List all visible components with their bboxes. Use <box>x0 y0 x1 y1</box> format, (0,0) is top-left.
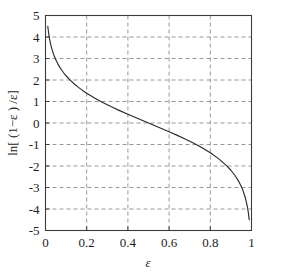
y-tick-label: -2 <box>29 159 40 174</box>
y-tick-label: 2 <box>33 73 40 88</box>
y-tick-label: 5 <box>33 8 40 23</box>
x-axis-title: ε <box>145 255 151 270</box>
y-tick-label: -3 <box>29 180 40 195</box>
x-tick-label: 1 <box>248 235 255 250</box>
y-tick-label: -5 <box>29 223 40 238</box>
y-tick-label: 0 <box>33 116 40 131</box>
x-tick-label: 0.6 <box>161 235 178 250</box>
x-tick-label: 0.4 <box>120 235 137 250</box>
x-tick-label: 0.8 <box>202 235 218 250</box>
y-tick-label: 4 <box>33 30 40 45</box>
chart-figure: 00.20.40.60.81 543210-1-2-3-4-5 ε ln[ (1… <box>0 0 293 276</box>
logit-curve-chart: 00.20.40.60.81 543210-1-2-3-4-5 ε ln[ (1… <box>0 0 293 276</box>
x-tick-label: 0.2 <box>79 235 95 250</box>
y-tick-label: 3 <box>33 51 40 66</box>
y-tick-label: 1 <box>33 94 40 109</box>
y-axis-title: ln[ (1−ε ) /ε] <box>5 90 20 156</box>
y-tick-label: -4 <box>29 202 40 217</box>
x-tick-label: 0 <box>42 235 49 250</box>
y-tick-label: -1 <box>29 137 40 152</box>
